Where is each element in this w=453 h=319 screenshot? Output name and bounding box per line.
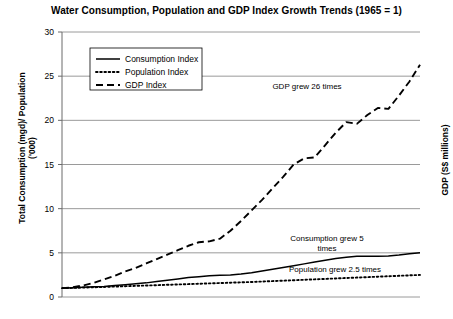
plot-area: 051015202530GDP grew 26 timesConsumption… (0, 0, 453, 319)
legend-label: Population Index (125, 67, 189, 77)
y-tick-label: 30 (45, 27, 55, 37)
chart-figure: Water Consumption, Population and GDP In… (0, 0, 453, 319)
y-tick-label: 20 (45, 115, 55, 125)
chart-annotation: Population grew 2.5 times (289, 265, 381, 274)
y-tick-label: 10 (45, 204, 55, 214)
legend-label: Consumption Index (125, 54, 199, 64)
legend-label: GDP Index (125, 80, 167, 90)
y-tick-label: 15 (45, 160, 55, 170)
chart-annotation: GDP grew 26 times (272, 82, 341, 91)
series-line-population-index (62, 275, 420, 288)
series-line-gdp-index (62, 65, 420, 288)
y-tick-label: 0 (49, 292, 54, 302)
chart-annotation: times (317, 244, 336, 253)
y-tick-label: 5 (49, 248, 54, 258)
chart-annotation: Consumption grew 5 (290, 234, 364, 243)
y-tick-label: 25 (45, 71, 55, 81)
